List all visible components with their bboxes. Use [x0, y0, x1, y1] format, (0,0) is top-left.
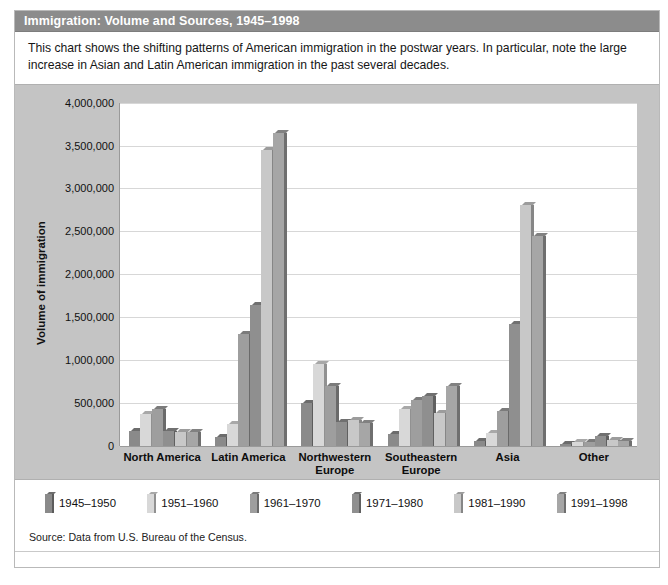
- bar: [129, 431, 140, 446]
- bar: [163, 431, 174, 446]
- bar-face: [532, 236, 543, 446]
- bar: [325, 386, 336, 446]
- bar-series-container: [120, 103, 637, 446]
- bar: [152, 409, 163, 446]
- y-axis-tick-label: 3,500,000: [18, 140, 114, 152]
- x-axis-category-label: Other: [551, 451, 637, 465]
- bar: [520, 205, 531, 446]
- bar-group: [379, 103, 465, 446]
- y-axis-tick-label: 1,500,000: [18, 311, 114, 323]
- legend-swatch-side: [359, 494, 361, 513]
- gridline: [120, 446, 637, 447]
- bar-face: [422, 396, 433, 446]
- chart-title-bar: Immigration: Volume and Sources, 1945–19…: [15, 11, 659, 32]
- legend-swatch-top: [456, 492, 465, 494]
- bar-face: [607, 440, 618, 446]
- bar: [238, 334, 249, 445]
- legend-item[interactable]: 1991–1998: [557, 494, 659, 513]
- bar-face: [497, 411, 508, 445]
- bar-side-face: [629, 441, 632, 446]
- legend-item[interactable]: 1981–1990: [454, 494, 556, 513]
- chart-panel: Volume of immigration 4,000,0003,500,000…: [15, 84, 659, 480]
- legend-swatch-side: [257, 494, 259, 513]
- legend-item[interactable]: 1961–1970: [250, 494, 352, 513]
- bar-face: [509, 324, 520, 446]
- x-axis-category-label: NorthwesternEurope: [292, 451, 378, 478]
- legend-item[interactable]: 1951–1960: [147, 494, 249, 513]
- bar: [227, 424, 238, 445]
- legend-label: 1945–1950: [59, 497, 116, 509]
- bar: [348, 420, 359, 446]
- bar: [595, 436, 606, 445]
- bar-face: [129, 431, 140, 446]
- bar-face: [152, 409, 163, 446]
- bar: [474, 441, 485, 446]
- bar: [301, 403, 312, 446]
- x-axis-category-label: SoutheasternEurope: [378, 451, 464, 478]
- y-axis-tick-label: 4,000,000: [18, 97, 114, 109]
- bar-face: [238, 334, 249, 445]
- bar: [422, 396, 433, 446]
- bar: [250, 305, 261, 446]
- chart-legend: 1945–19501951–19601961–19701971–19801981…: [15, 480, 659, 513]
- page-title: Immigration: Volume and Sources, 1945–19…: [24, 14, 300, 28]
- bar: [446, 386, 457, 446]
- bar: [313, 364, 324, 445]
- bar: [359, 423, 370, 445]
- legend-label: 1951–1960: [161, 497, 218, 509]
- bar: [336, 422, 347, 446]
- legend-swatch: [557, 494, 564, 513]
- legend-swatch: [250, 494, 257, 513]
- bar-face: [175, 432, 186, 446]
- bar: [175, 432, 186, 446]
- bar-face: [520, 205, 531, 446]
- legend-swatch-side: [154, 494, 156, 513]
- bar-top-face: [327, 383, 341, 386]
- bar: [486, 433, 497, 446]
- bar: [532, 236, 543, 446]
- bar-face: [595, 436, 606, 445]
- y-axis-tick-label: 500,000: [18, 397, 114, 409]
- y-axis-tick-label: 0: [18, 440, 114, 452]
- bar-group: [206, 103, 292, 446]
- legend-item[interactable]: 1971–1980: [352, 494, 454, 513]
- bar-face: [301, 403, 312, 446]
- bar: [560, 444, 571, 446]
- legend-swatch-top: [558, 492, 567, 494]
- bar: [607, 440, 618, 446]
- bar: [215, 437, 226, 446]
- x-axis-category-label: North America: [119, 451, 205, 465]
- legend-swatch-top: [251, 492, 260, 494]
- y-axis-tick-label: 2,000,000: [18, 268, 114, 280]
- bar-side-face: [543, 236, 546, 446]
- bar-face: [163, 431, 174, 446]
- bar: [388, 434, 399, 446]
- bar: [584, 442, 595, 446]
- source-note: Source: Data from U.S. Bureau of the Cen…: [29, 531, 247, 543]
- bar-side-face: [284, 133, 287, 446]
- legend-swatch-side: [461, 494, 463, 513]
- legend-item[interactable]: 1945–1950: [45, 494, 147, 513]
- bar-side-face: [457, 386, 460, 446]
- bar: [140, 414, 151, 446]
- bar-face: [474, 441, 485, 446]
- bar-face: [584, 442, 595, 446]
- legend-swatch: [45, 494, 52, 513]
- legend-swatch: [147, 494, 154, 513]
- y-axis-tick-label: 1,000,000: [18, 354, 114, 366]
- legend-swatch-top: [353, 492, 362, 494]
- legend-divider: [15, 551, 659, 552]
- y-axis-tick-label: 3,000,000: [18, 182, 114, 194]
- bar-face: [411, 400, 422, 445]
- chart-figure: Immigration: Volume and Sources, 1945–19…: [14, 10, 660, 568]
- legend-swatch-top: [47, 492, 56, 494]
- bar: [618, 441, 629, 446]
- legend-swatch: [454, 494, 461, 513]
- x-axis-category-label: Latin America: [205, 451, 291, 465]
- plot-area: 4,000,0003,500,0003,000,0002,500,0002,00…: [119, 103, 637, 446]
- bar-face: [359, 423, 370, 445]
- bar-face: [325, 386, 336, 446]
- legend-swatch-top: [149, 492, 158, 494]
- bar: [261, 150, 272, 446]
- bar: [497, 411, 508, 445]
